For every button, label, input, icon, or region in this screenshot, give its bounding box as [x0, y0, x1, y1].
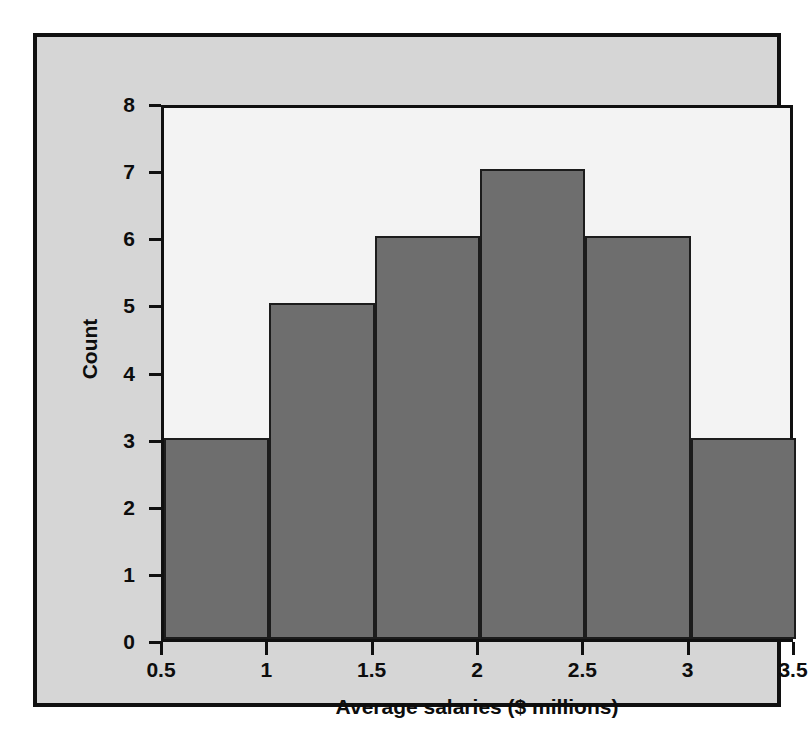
y-axis-tick-label: 0 — [95, 631, 135, 652]
x-axis-tick-label: 3.5 — [753, 659, 811, 680]
y-axis-tick — [149, 305, 161, 308]
y-axis-tick-label: 8 — [95, 94, 135, 115]
y-axis-tick-label: 6 — [95, 228, 135, 249]
x-axis-tick-label: 2 — [437, 659, 517, 680]
x-axis-tick-label: 3 — [648, 659, 728, 680]
y-axis-tick-label: 7 — [95, 161, 135, 182]
histogram-bar — [375, 236, 480, 639]
x-axis-tick — [265, 642, 268, 655]
histogram-bar — [585, 236, 690, 639]
x-axis-tick — [581, 642, 584, 655]
y-axis-tick — [149, 238, 161, 241]
x-axis-tick-label: 0.5 — [121, 659, 201, 680]
x-axis-label: Average salaries ($ millions) — [161, 695, 793, 719]
histogram-bar — [480, 169, 585, 639]
x-axis-tick-label: 1 — [226, 659, 306, 680]
bars-layer — [164, 108, 790, 639]
x-axis-tick — [160, 642, 163, 655]
y-axis-tick-label: 5 — [95, 295, 135, 316]
x-axis-tick — [687, 642, 690, 655]
y-axis-tick — [149, 373, 161, 376]
x-axis-tick — [476, 642, 479, 655]
x-axis-tick — [792, 642, 795, 655]
plot-area — [161, 105, 793, 642]
x-axis-tick-label: 2.5 — [542, 659, 622, 680]
y-axis-tick — [149, 440, 161, 443]
y-axis-tick-label: 4 — [95, 363, 135, 384]
chart-panel: Count Average salaries ($ millions) 0123… — [33, 33, 781, 707]
y-axis-label: Count — [78, 269, 102, 429]
y-axis-tick — [149, 507, 161, 510]
y-axis-tick — [149, 574, 161, 577]
y-axis-tick-label: 2 — [95, 497, 135, 518]
histogram-bar — [269, 303, 374, 639]
x-axis-tick — [371, 642, 374, 655]
y-axis-tick — [149, 171, 161, 174]
histogram-bar — [164, 438, 269, 639]
y-axis-tick-label: 1 — [95, 564, 135, 585]
histogram-figure: Count Average salaries ($ millions) 0123… — [0, 0, 811, 739]
y-axis-tick — [149, 104, 161, 107]
histogram-bar — [691, 438, 796, 639]
x-axis-tick-label: 1.5 — [332, 659, 412, 680]
y-axis-tick-label: 3 — [95, 430, 135, 451]
